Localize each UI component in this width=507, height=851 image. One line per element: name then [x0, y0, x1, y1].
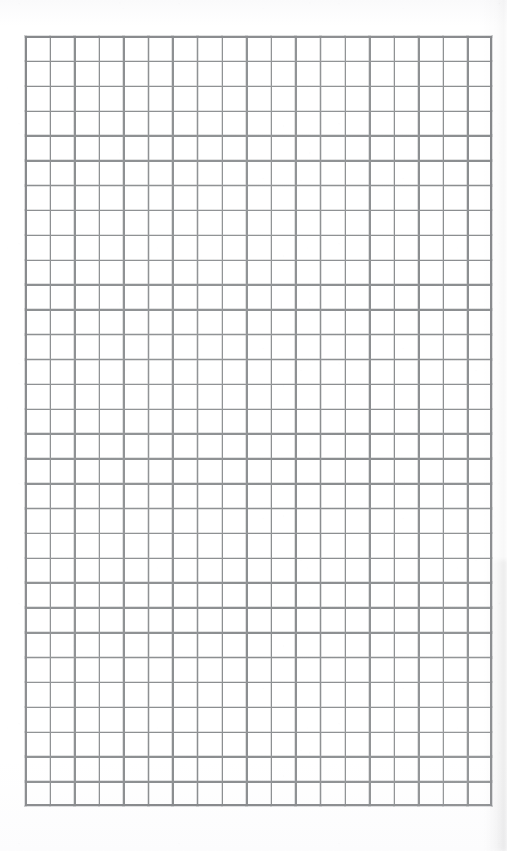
scanned-page — [0, 0, 507, 851]
grid-border-bottom — [25, 804, 492, 806]
grid-ruling-softening — [24, 35, 493, 807]
grid-border-top — [25, 36, 492, 38]
grid-border-left — [25, 36, 27, 806]
grid-border-right — [490, 36, 492, 806]
grid-paper-block — [25, 36, 492, 806]
